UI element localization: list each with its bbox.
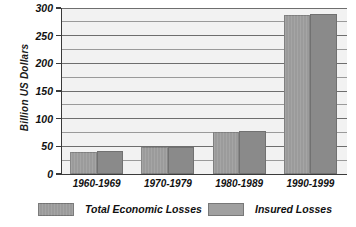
chart-legend: Total Economic LossesInsured Losses (38, 200, 350, 218)
y-axis-tick-label: 250 (5, 31, 53, 41)
legend-item: Total Economic Losses (38, 200, 202, 218)
y-axis-tick-label: 50 (5, 141, 53, 151)
bar-group (284, 8, 337, 174)
x-axis-label-group: 1960-19691970-19791980-19891990-1999 (61, 178, 346, 194)
bar-group (70, 8, 123, 174)
x-axis-label: 1970-1979 (132, 178, 203, 189)
bar-chart: Billion US Dollars 050100150200250300 19… (0, 0, 356, 227)
y-axis-tick-label: 200 (5, 58, 53, 68)
x-axis-label: 1990-1999 (275, 178, 346, 189)
legend-label: Insured Losses (255, 203, 332, 215)
x-axis-label: 1960-1969 (61, 178, 132, 189)
legend-label: Total Economic Losses (85, 203, 202, 215)
bar-insured-losses (310, 14, 337, 174)
legend-swatch-icon (208, 203, 244, 216)
x-axis-label: 1980-1989 (204, 178, 275, 189)
y-axis-tick-label: 150 (5, 86, 53, 96)
bars-layer (61, 8, 346, 174)
y-axis-tick-label: 0 (5, 169, 53, 179)
legend-item: Insured Losses (208, 200, 332, 218)
bar-total-economic-losses (284, 15, 311, 174)
bar-insured-losses (239, 131, 266, 174)
bar-insured-losses (168, 147, 195, 174)
bar-insured-losses (97, 151, 124, 174)
bar-group (141, 8, 194, 174)
legend-swatch-icon (38, 203, 74, 216)
bar-group (213, 8, 266, 174)
y-axis-tick-label: 100 (5, 114, 53, 124)
y-axis-tick-label: 300 (5, 3, 53, 13)
bar-total-economic-losses (141, 147, 168, 174)
bar-total-economic-losses (213, 132, 240, 174)
bar-total-economic-losses (70, 152, 97, 174)
